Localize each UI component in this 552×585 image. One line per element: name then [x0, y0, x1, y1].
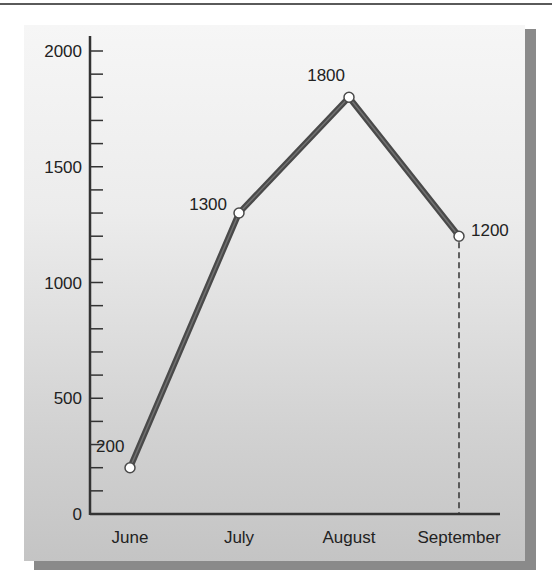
y-tick-label: 1000 — [44, 274, 82, 293]
data-point-marker — [234, 208, 244, 218]
data-series: 200130018001200 — [96, 66, 509, 514]
y-tick-label: 0 — [73, 505, 82, 524]
data-label: 1200 — [471, 221, 509, 240]
data-label: 200 — [96, 437, 124, 456]
y-axis: 0500100015002000 — [44, 36, 103, 524]
data-label: 1800 — [307, 66, 345, 85]
x-tick-label: August — [323, 528, 376, 547]
data-point-marker — [125, 463, 135, 473]
y-tick-label: 500 — [54, 389, 82, 408]
x-tick-label: July — [224, 528, 255, 547]
data-point-marker — [454, 231, 464, 241]
x-axis: JuneJulyAugustSeptember — [90, 514, 501, 547]
line-chart: 0500100015002000 JuneJulyAugustSeptember… — [0, 0, 552, 585]
data-label: 1300 — [189, 195, 227, 214]
data-point-marker — [344, 92, 354, 102]
y-tick-label: 2000 — [44, 42, 82, 61]
x-tick-label: September — [417, 528, 500, 547]
y-tick-label: 1500 — [44, 158, 82, 177]
x-tick-label: June — [112, 528, 149, 547]
series-line — [130, 97, 459, 467]
